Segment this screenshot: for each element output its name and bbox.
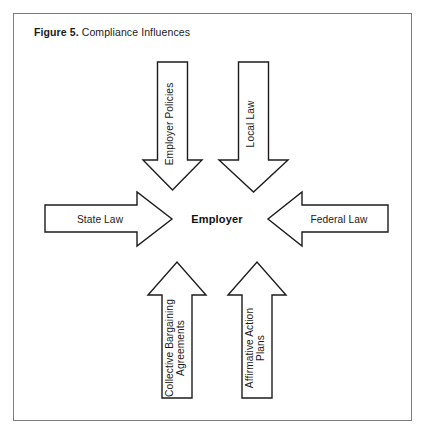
arrow-label-state-law: State Law — [77, 214, 124, 225]
arrow-affirmative-action-plans — [228, 262, 286, 398]
arrow-label-collective-bargaining-line2: Agreements — [175, 320, 186, 376]
compliance-influences-diagram: Employer Policies Local Law State Law Em… — [0, 0, 435, 437]
figure-container: Figure 5. Compliance Influences Employer… — [0, 0, 435, 437]
arrow-label-affirmative-action-line2: Plans — [255, 335, 266, 361]
arrow-label-employer-policies: Employer Policies — [164, 83, 175, 166]
arrow-label-federal-law: Federal Law — [310, 214, 368, 225]
arrow-label-collective-bargaining-line1: Collective Bargaining — [164, 299, 175, 397]
arrow-label-local-law: Local Law — [245, 100, 256, 147]
center-node-employer: Employer — [191, 213, 243, 225]
arrow-label-affirmative-action-line1: Affirmative Action — [244, 308, 255, 388]
